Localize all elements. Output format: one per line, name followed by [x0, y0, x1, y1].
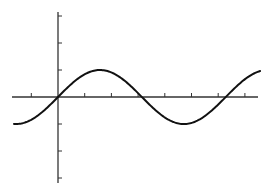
axes	[12, 12, 258, 183]
sine-wave-chart	[0, 0, 272, 194]
